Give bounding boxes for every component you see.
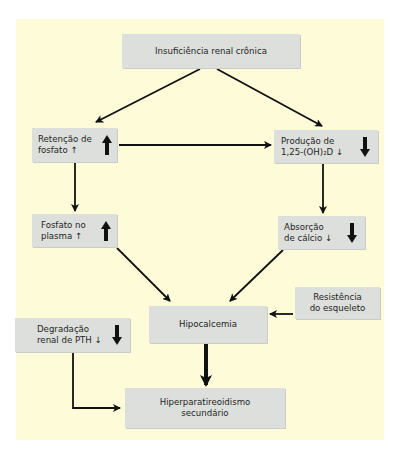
- node-degradacao-pth: Degradação renal de PTH ↓: [15, 318, 130, 352]
- node-label-line1: Retenção de: [38, 134, 92, 144]
- down-arrow-icon: [360, 137, 370, 157]
- node-label: Insuficiência renal crônica: [122, 46, 300, 57]
- node-hipocalcemia: Hipocalcemia: [149, 306, 267, 343]
- node-label-line2: fosfato ↑: [38, 145, 78, 155]
- node-label-line1: Produção de: [281, 136, 334, 146]
- node-label-line2: plasma ↑: [41, 231, 82, 241]
- down-arrow-icon: [112, 325, 122, 345]
- node-label-line1: Resistência: [313, 292, 362, 302]
- node-label-line1: Absorção: [284, 222, 324, 232]
- node-label-line2: 1,25-(OH)₂D ↓: [281, 147, 343, 157]
- node-label-line2: de cálcio ↓: [284, 233, 332, 243]
- node-label-line2: do esqueleto: [310, 303, 366, 313]
- node-producao-vitamina-d: Produção de 1,25-(OH)₂D ↓: [274, 130, 378, 163]
- node-insuficiencia-renal: Insuficiência renal crônica: [122, 34, 300, 68]
- node-retencao-fosfato: Retenção de fosfato ↑: [32, 128, 117, 162]
- node-label-line1: Hiperparatireoidismo: [160, 397, 251, 407]
- up-arrow-icon: [101, 221, 111, 241]
- node-resistencia-esqueleto: Resistência do esqueleto: [295, 287, 380, 319]
- node-label-line1: Degradação: [37, 324, 89, 334]
- node-label-line2: renal de PTH ↓: [37, 335, 102, 345]
- node-fosfato-plasma: Fosfato no plasma ↑: [32, 214, 117, 247]
- node-hiperparatireoidismo: Hiperparatireoidismo secundário: [125, 388, 285, 428]
- node-absorcao-calcio: Absorção de cálcio ↓: [278, 216, 365, 249]
- node-label-line2: secundário: [181, 408, 228, 418]
- up-arrow-icon: [102, 135, 112, 155]
- node-label-line1: Fosfato no: [41, 220, 86, 230]
- down-arrow-icon: [347, 223, 357, 243]
- node-label: Hipocalcemia: [149, 319, 267, 330]
